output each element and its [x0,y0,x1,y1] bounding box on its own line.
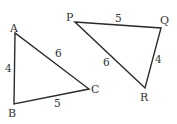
side-label-bc: 5 [54,97,61,109]
vertex-label-q: Q [160,14,169,27]
side-label-pq: 5 [115,12,122,24]
vertex-label-r: R [140,91,149,104]
vertex-label-b: B [8,107,16,120]
vertex-label-p: P [66,11,74,24]
side-label-pr: 6 [103,56,110,68]
side-label-ac: 6 [55,47,62,59]
side-label-ab: 4 [5,62,12,74]
vertex-label-a: A [9,22,19,35]
triangles-diagram: A B C 4 5 6 P Q R 5 4 6 [0,0,177,124]
triangle-pqr-outline [75,22,161,88]
triangle-abc: A B C 4 5 6 [5,22,99,120]
side-label-qr: 4 [155,53,162,65]
triangle-abc-outline [14,33,89,104]
vertex-label-c: C [91,83,99,96]
